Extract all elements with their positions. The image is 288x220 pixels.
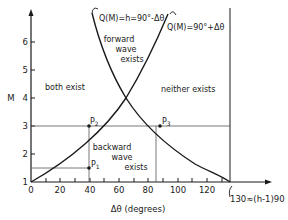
x-tick-label: 100 bbox=[170, 185, 186, 195]
region-backward-line2: wave bbox=[111, 153, 132, 162]
y-axis-arrow-icon bbox=[29, 9, 34, 16]
y-tick-label: 4 bbox=[23, 93, 28, 103]
x-limit-label: 130≈(h-1)90 bbox=[230, 194, 285, 204]
region-neither-exists: neither exists bbox=[161, 85, 215, 94]
y-tick-label: 6 bbox=[23, 37, 28, 47]
x-axis-arrow-icon bbox=[265, 180, 272, 185]
x-tick-label: 80 bbox=[143, 185, 154, 195]
point-p2-label: P2 bbox=[90, 117, 99, 127]
region-backward-line1: backward bbox=[93, 143, 132, 152]
curve-right-label: Q(M)=90°+Δθ bbox=[167, 23, 225, 32]
curve-left-label: Q(M)=h=90°-Δθ bbox=[99, 14, 164, 23]
region-forward-line3: exists bbox=[120, 55, 143, 64]
y-tick-label: 5 bbox=[23, 65, 28, 75]
diagram-canvas: 1 2 3 4 5 6 M 0 20 40 60 80 100 120 130≈… bbox=[0, 0, 288, 220]
y-tick-label: 3 bbox=[23, 121, 28, 131]
region-forward-line2: wave bbox=[115, 45, 136, 54]
x-tick-label: 40 bbox=[85, 185, 96, 195]
x-tick-label: 60 bbox=[114, 185, 125, 195]
x-tick-label: 120 bbox=[199, 185, 215, 195]
region-backward-line3: exists bbox=[124, 163, 147, 172]
right-label-pointer-icon bbox=[170, 12, 176, 15]
left-label-pointer-icon bbox=[92, 8, 98, 13]
y-tick-label: 1 bbox=[23, 177, 28, 187]
x-tick-label: 0 bbox=[28, 185, 33, 195]
x-tick-label: 20 bbox=[55, 185, 66, 195]
x-axis-title: Δθ (degrees) bbox=[111, 204, 166, 214]
y-axis-title: M bbox=[7, 93, 14, 103]
point-p1-label: P1 bbox=[91, 160, 100, 170]
region-both-exist: both exist bbox=[45, 83, 85, 92]
y-tick-label: 2 bbox=[23, 149, 28, 159]
region-forward-line1: forward bbox=[104, 35, 135, 44]
point-p3-label: P3 bbox=[162, 117, 171, 127]
